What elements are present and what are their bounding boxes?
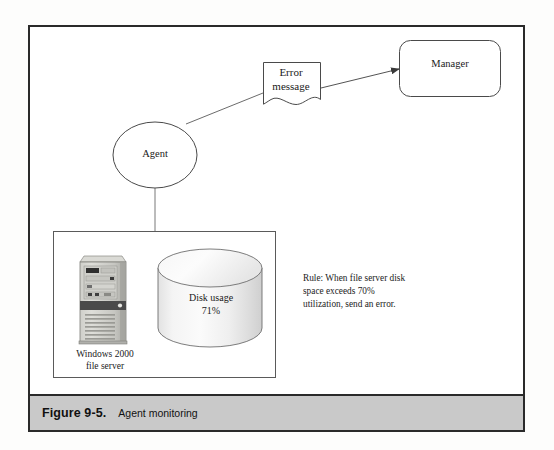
manager-label: Manager [404, 58, 496, 70]
figure-root: Manager Error message Agent Disk usage 7… [0, 0, 554, 450]
figure-caption-title: Agent monitoring [118, 407, 197, 419]
figure-caption-band: Figure 9-5. Agent monitoring [30, 394, 523, 430]
disk-usage-label: Disk usage 71% [172, 291, 250, 317]
agent-label: Agent [124, 148, 186, 160]
figure-caption-number: Figure 9-5. [42, 406, 106, 420]
error-message-label: Error message [261, 66, 321, 94]
rule-annotation: Rule: When file server disk space exceed… [303, 272, 453, 312]
file-server-label: Windows 2000 file server [58, 348, 152, 373]
